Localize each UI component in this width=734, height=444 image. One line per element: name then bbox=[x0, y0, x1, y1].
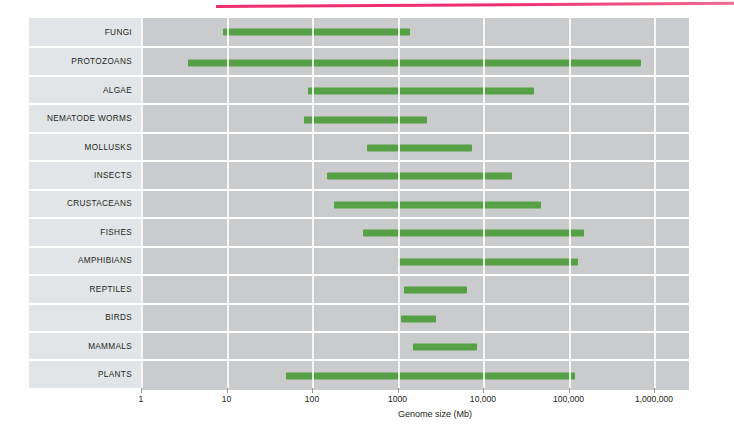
chart-row: BIRDS bbox=[29, 303, 689, 331]
range-bar bbox=[188, 59, 641, 66]
range-bar bbox=[223, 29, 410, 36]
axis-tick-label: 100,000 bbox=[553, 394, 584, 404]
range-bar bbox=[286, 372, 575, 379]
axis-tick-label: 1 bbox=[139, 394, 144, 404]
row-track bbox=[141, 217, 689, 247]
chart-row: PROTOZOANS bbox=[29, 46, 689, 74]
axis-tick-label: 10,000 bbox=[470, 394, 496, 404]
row-track bbox=[141, 160, 689, 190]
row-track bbox=[141, 274, 689, 304]
category-label: MAMMALS bbox=[29, 331, 141, 359]
axis-tick bbox=[227, 388, 228, 393]
category-label: INSECTS bbox=[29, 160, 141, 188]
range-bar bbox=[401, 315, 436, 322]
row-track bbox=[141, 46, 689, 76]
range-bar bbox=[327, 173, 512, 180]
chart-row: MAMMALS bbox=[29, 331, 689, 359]
axis-tick-label: 10 bbox=[222, 394, 232, 404]
category-label: FISHES bbox=[29, 217, 141, 245]
axis-tick-label: 100 bbox=[305, 394, 319, 404]
axis-tick-label: 1000 bbox=[388, 394, 407, 404]
category-label: ALGAE bbox=[29, 75, 141, 103]
chart-row: INSECTS bbox=[29, 160, 689, 188]
chart-row: FUNGI bbox=[29, 18, 689, 46]
chart-row: REPTILES bbox=[29, 274, 689, 302]
row-track bbox=[141, 246, 689, 276]
category-label: NEMATODE WORMS bbox=[29, 103, 141, 131]
genome-size-chart: FUNGIPROTOZOANSALGAENEMATODE WORMSMOLLUS… bbox=[29, 18, 689, 388]
axis-tick bbox=[312, 388, 313, 393]
row-track bbox=[141, 132, 689, 162]
decorative-top-rule bbox=[216, 2, 734, 8]
range-bar bbox=[398, 258, 579, 265]
chart-row: PLANTS bbox=[29, 359, 689, 387]
category-label: BIRDS bbox=[29, 303, 141, 331]
chart-row: NEMATODE WORMS bbox=[29, 103, 689, 131]
axis-tick bbox=[141, 388, 142, 393]
axis-tick bbox=[483, 388, 484, 393]
row-track bbox=[141, 303, 689, 333]
range-bar bbox=[334, 201, 541, 208]
x-axis-title: Genome size (Mb) bbox=[29, 409, 689, 419]
x-axis: 110100100010,000100,0001,000,000 Genome … bbox=[29, 388, 689, 444]
category-label: PLANTS bbox=[29, 359, 141, 387]
row-track bbox=[141, 189, 689, 219]
category-label: PROTOZOANS bbox=[29, 46, 141, 74]
category-label: CRUSTACEANS bbox=[29, 189, 141, 217]
chart-row: MOLLUSKS bbox=[29, 132, 689, 160]
chart-row: FISHES bbox=[29, 217, 689, 245]
axis-tick bbox=[569, 388, 570, 393]
range-bar bbox=[413, 344, 477, 351]
chart-row: ALGAE bbox=[29, 75, 689, 103]
range-bar bbox=[308, 88, 534, 95]
category-label: MOLLUSKS bbox=[29, 132, 141, 160]
axis-tick bbox=[654, 388, 655, 393]
row-track bbox=[141, 331, 689, 361]
row-track bbox=[141, 18, 689, 46]
chart-row: CRUSTACEANS bbox=[29, 189, 689, 217]
row-track bbox=[141, 75, 689, 105]
x-axis-title-text: Genome size (Mb) bbox=[398, 409, 472, 419]
range-bar bbox=[404, 287, 467, 294]
range-bar bbox=[363, 230, 583, 237]
row-track bbox=[141, 103, 689, 133]
axis-tick bbox=[398, 388, 399, 393]
range-bar bbox=[367, 145, 472, 152]
category-label: FUNGI bbox=[29, 18, 141, 46]
range-bar bbox=[304, 116, 427, 123]
category-label: AMPHIBIANS bbox=[29, 246, 141, 274]
chart-row: AMPHIBIANS bbox=[29, 246, 689, 274]
row-track bbox=[141, 359, 689, 389]
chart-rows: FUNGIPROTOZOANSALGAENEMATODE WORMSMOLLUS… bbox=[29, 18, 689, 388]
category-label: REPTILES bbox=[29, 274, 141, 302]
axis-tick-label: 1,000,000 bbox=[635, 394, 673, 404]
